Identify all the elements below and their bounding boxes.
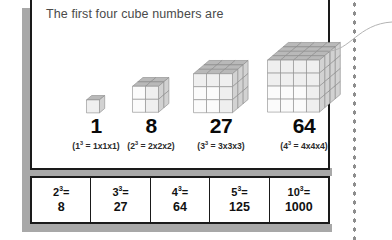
cube-value-3: 27 <box>181 114 261 138</box>
panel-shadow-bottom-table <box>22 224 332 232</box>
table-cell-expression: 23= <box>53 187 69 199</box>
table-cell-4: 53=125 <box>210 178 269 222</box>
dotted-binder-edge <box>352 0 357 240</box>
table-cell-value: 27 <box>114 201 128 214</box>
table-cell-value: 125 <box>229 201 250 214</box>
table-cell-2: 33=27 <box>91 178 150 222</box>
table-cell-value: 64 <box>173 201 187 214</box>
cube-model-2 <box>131 76 170 114</box>
cube-model-1 <box>85 94 106 114</box>
table-cell-5: 103=1000 <box>270 178 328 222</box>
cube-model-3 <box>192 59 250 114</box>
table-cell-expression: 43= <box>172 187 188 199</box>
table-cell-expression: 33= <box>112 187 128 199</box>
table-cell-expression: 53= <box>231 187 247 199</box>
table-cell-value: 8 <box>58 201 65 214</box>
table-cell-1: 23=8 <box>32 178 91 222</box>
cube-model-4 <box>266 41 342 114</box>
cube-value-4: 64 <box>264 114 344 138</box>
cube-illustration-panel: The first four cube numbers are 1(13 = 1… <box>30 0 330 170</box>
cube-values-table: 23=833=2743=6453=125103=1000 <box>30 176 330 224</box>
table-cell-expression: 103= <box>288 187 310 199</box>
cube-expression-4: (43 = 4x4x4) <box>254 141 354 151</box>
cube-diagram-row <box>32 18 328 114</box>
table-cell-value: 1000 <box>285 201 313 214</box>
cube-value-2: 8 <box>111 114 191 138</box>
table-cell-3: 43=64 <box>151 178 210 222</box>
